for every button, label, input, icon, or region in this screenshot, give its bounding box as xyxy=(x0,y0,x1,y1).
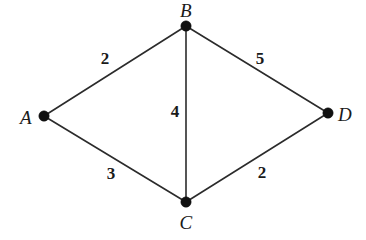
graph-edge-ab xyxy=(44,26,186,116)
graph-node-d xyxy=(323,108,333,118)
graph-edge-cd xyxy=(186,113,328,202)
graph-node-c xyxy=(181,197,191,207)
graph-edge-ac xyxy=(44,116,186,202)
edges-layer xyxy=(44,26,328,202)
graph-canvas xyxy=(0,0,366,240)
graph-figure: ABCD25432 xyxy=(0,0,366,240)
graph-edge-bd xyxy=(186,26,328,113)
graph-node-b xyxy=(181,21,191,31)
graph-node-a xyxy=(39,111,49,121)
